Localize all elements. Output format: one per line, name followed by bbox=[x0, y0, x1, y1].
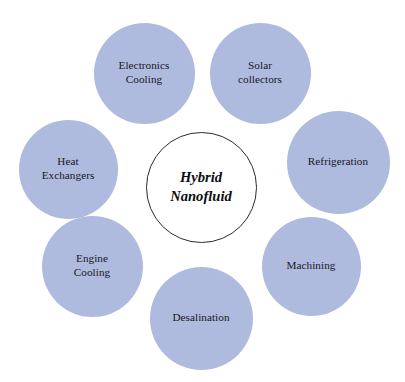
node-label-desalination: Desalination bbox=[166, 311, 235, 325]
node-electronics-cooling[interactable]: Electronics Cooling bbox=[94, 23, 195, 124]
diagram-canvas: Electronics Cooling Solar collectors Ref… bbox=[0, 0, 405, 382]
node-label-hybrid-nanofluid: Hybrid Nanofluid bbox=[170, 168, 232, 205]
node-label-solar-collectors: Solar collectors bbox=[232, 59, 288, 86]
node-label-refrigeration: Refrigeration bbox=[302, 155, 374, 169]
node-label-engine-cooling: Engine Cooling bbox=[68, 252, 116, 279]
node-machining[interactable]: Machining bbox=[262, 217, 361, 316]
node-center-hybrid-nanofluid[interactable]: Hybrid Nanofluid bbox=[146, 132, 257, 243]
node-label-machining: Machining bbox=[281, 259, 342, 273]
node-solar-collectors[interactable]: Solar collectors bbox=[210, 23, 311, 124]
node-label-heat-exchangers: Heat Exchangers bbox=[36, 155, 101, 182]
node-heat-exchangers[interactable]: Heat Exchangers bbox=[19, 120, 118, 219]
node-refrigeration[interactable]: Refrigeration bbox=[287, 111, 390, 214]
node-engine-cooling[interactable]: Engine Cooling bbox=[42, 216, 143, 317]
node-desalination[interactable]: Desalination bbox=[150, 267, 253, 370]
node-label-electronics-cooling: Electronics Cooling bbox=[113, 59, 176, 86]
